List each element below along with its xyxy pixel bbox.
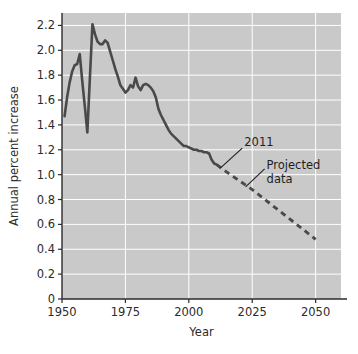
x-axis-tick-label: 2000 [174,305,203,319]
y-axis-tick-label: 1.0 [37,168,55,182]
y-axis-tick-label: 2.0 [37,43,55,57]
x-axis-tick-label: 1975 [111,305,140,319]
y-axis-tick-label: 0.2 [37,267,55,281]
y-axis-tick-label: 0.4 [37,242,55,256]
annotation-label-projected-line2: data [267,172,293,186]
y-axis-tick-label: 0 [48,292,55,306]
chart-figure: 00.20.40.60.81.01.21.41.61.82.02.2 19501… [0,0,358,354]
annotation-label-2011: 2011 [244,135,273,149]
y-axis-tick-label: 0.8 [37,193,55,207]
x-axis-tick-label: 1950 [47,305,76,319]
line-chart-svg: 00.20.40.60.81.01.21.41.61.82.02.2 19501… [0,0,358,354]
y-axis-title: Annual percent increase [7,86,21,226]
plot-area-background [62,13,341,299]
y-axis-tick-label: 1.6 [37,93,55,107]
x-axis-tick-label: 2050 [301,305,330,319]
y-axis-tick-label: 2.2 [37,18,55,32]
x-axis-tick-label: 2025 [238,305,267,319]
annotation-label-projected-line1: Projected [267,158,321,172]
x-axis-title: Year [188,325,214,339]
y-axis-tick-label: 1.4 [37,118,55,132]
y-axis-tick-label: 1.8 [37,68,55,82]
y-axis-tick-label: 0.6 [37,217,55,231]
y-axis-tick-label: 1.2 [37,143,55,157]
